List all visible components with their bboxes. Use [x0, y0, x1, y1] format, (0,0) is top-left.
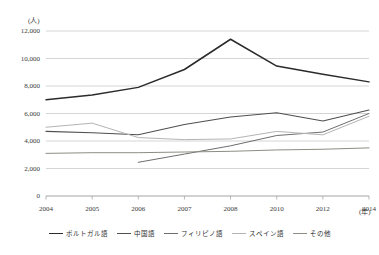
legend-item[interactable]: ポルトガル語 — [49, 228, 108, 238]
x-tick-label: 2007 — [177, 205, 191, 213]
legend-line-swatch — [49, 233, 63, 234]
y-tick-label: 10,000 — [6, 55, 40, 63]
legend-label: その他 — [310, 228, 331, 238]
y-tick-label: 0 — [6, 192, 40, 200]
chart-plot-area — [0, 0, 379, 255]
x-tick-label: 2008 — [224, 205, 238, 213]
y-tick-label: 6,000 — [6, 110, 40, 118]
x-tick-label: 2010 — [270, 205, 284, 213]
legend-label: スペイン語 — [249, 228, 284, 238]
legend-label: 中国語 — [134, 228, 155, 238]
y-tick-label: 2,000 — [6, 165, 40, 173]
line-chart: (人) 02,0004,0006,0008,00010,00012,000 20… — [0, 0, 379, 255]
y-tick-label: 8,000 — [6, 82, 40, 90]
series-line-3 — [46, 116, 369, 139]
legend-label: ポルトガル語 — [66, 228, 108, 238]
legend-item[interactable]: フィリピノ語 — [164, 228, 223, 238]
y-tick-label: 4,000 — [6, 137, 40, 145]
x-tick-label: 2012 — [316, 205, 330, 213]
legend-line-swatch — [164, 233, 178, 234]
legend-line-swatch — [293, 233, 307, 234]
chart-legend: ポルトガル語中国語フィリピノ語スペイン語その他 — [0, 228, 379, 238]
legend-label: フィリピノ語 — [181, 228, 223, 238]
legend-line-swatch — [232, 233, 246, 234]
x-tick-label: 2004 — [39, 205, 53, 213]
x-axis-unit-label: (年) — [359, 206, 371, 216]
legend-line-swatch — [117, 233, 131, 234]
series-line-0 — [46, 39, 369, 100]
legend-item[interactable]: その他 — [293, 228, 331, 238]
series-line-2 — [138, 114, 369, 163]
x-tick-label: 2005 — [85, 205, 99, 213]
y-tick-label: 12,000 — [6, 27, 40, 35]
x-tick-label: 2006 — [131, 205, 145, 213]
legend-item[interactable]: 中国語 — [117, 228, 155, 238]
legend-item[interactable]: スペイン語 — [232, 228, 284, 238]
series-line-4 — [46, 148, 369, 154]
